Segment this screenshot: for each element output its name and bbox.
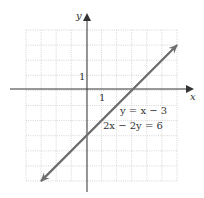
- chart: x y 1 1 y = x − 3 2x − 2y = 6: [0, 0, 204, 198]
- equation-label-2: 2x − 2y = 6: [103, 120, 163, 131]
- y-tick-label: 1: [79, 71, 85, 82]
- y-axis-label: y: [75, 10, 82, 21]
- x-tick-label: 1: [99, 92, 105, 103]
- equation-label-1: y = x − 3: [119, 105, 167, 116]
- x-axis-label: x: [190, 91, 196, 102]
